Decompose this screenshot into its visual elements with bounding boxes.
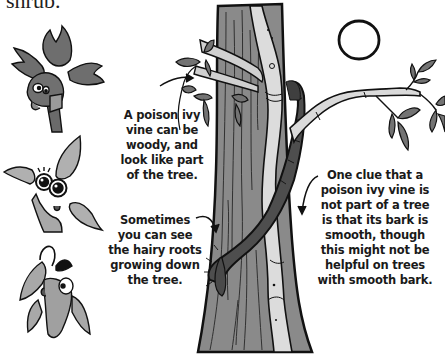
caption-line: smooth, though xyxy=(300,228,445,243)
caption-line: poison ivy vine is xyxy=(300,183,445,198)
caption-line: the hairy roots xyxy=(80,243,230,258)
caption-line: Sometimes xyxy=(80,213,230,228)
caption-line: A poison ivy xyxy=(92,108,232,123)
caption-line: growing down xyxy=(80,258,230,273)
caption-line: this might not be xyxy=(300,243,445,258)
caption-line: of the tree. xyxy=(92,168,232,183)
caption-line: with smooth bark. xyxy=(300,273,445,288)
leaf-character-top xyxy=(12,26,104,132)
caption-line: vine can be xyxy=(92,123,232,138)
caption-line: helpful on trees xyxy=(300,258,445,273)
caption-line: look like part xyxy=(92,153,232,168)
sun-circle xyxy=(339,21,379,59)
caption-bark-clue: One clue that a poison ivy vine is not p… xyxy=(300,168,445,288)
caption-line: is that its bark is xyxy=(300,213,445,228)
caption-line: the tree. xyxy=(80,273,230,288)
caption-line: not part of a tree xyxy=(300,198,445,213)
caption-line: One clue that a xyxy=(300,168,445,183)
caption-woody-vine: A poison ivy vine can be woody, and look… xyxy=(92,108,232,183)
caption-hairy-roots: Sometimes you can see the hairy roots gr… xyxy=(80,213,230,288)
vine-branch-right xyxy=(290,60,445,150)
caption-line: you can see xyxy=(80,228,230,243)
caption-line: woody, and xyxy=(92,138,232,153)
